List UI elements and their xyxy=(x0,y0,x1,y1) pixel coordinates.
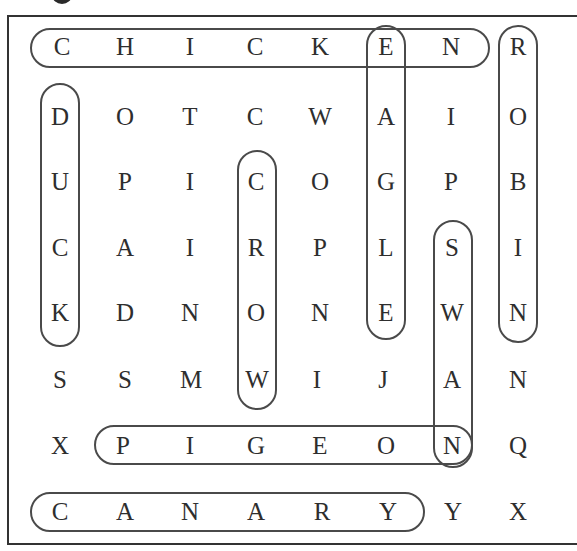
letter-cell[interactable]: B xyxy=(498,162,538,202)
letter-cell[interactable]: A xyxy=(105,228,145,268)
letter-cell[interactable]: I xyxy=(498,228,538,268)
letter-cell[interactable]: T xyxy=(170,97,210,137)
letter-cell[interactable]: G xyxy=(366,162,406,202)
letter-cell[interactable]: W xyxy=(432,293,472,333)
letter-cell[interactable]: O xyxy=(300,162,340,202)
letter-cell[interactable]: M xyxy=(171,360,211,400)
letter-cell[interactable]: K xyxy=(300,27,340,67)
letter-cell[interactable]: N xyxy=(170,492,210,532)
letter-cell[interactable]: N xyxy=(170,293,210,333)
letter-cell[interactable]: O xyxy=(498,97,538,137)
letter-cell[interactable]: C xyxy=(42,27,82,67)
letter-cell[interactable]: O xyxy=(366,426,406,466)
letter-cell[interactable]: A xyxy=(366,97,406,137)
letter-cell[interactable]: D xyxy=(40,97,80,137)
letter-cell[interactable]: E xyxy=(366,27,406,67)
letter-cell[interactable]: K xyxy=(40,293,80,333)
letter-cell[interactable]: W xyxy=(237,360,277,400)
letter-cell[interactable]: P xyxy=(431,162,471,202)
letter-cell[interactable]: S xyxy=(40,360,80,400)
letter-cell[interactable]: N xyxy=(432,426,472,466)
letter-cell[interactable]: X xyxy=(498,492,538,532)
letter-cell[interactable]: A xyxy=(236,492,276,532)
letter-cell[interactable]: Y xyxy=(433,492,473,532)
letter-cell[interactable]: D xyxy=(105,293,145,333)
letter-cell[interactable]: W xyxy=(300,97,340,137)
letter-cell[interactable]: C xyxy=(235,27,275,67)
letter-cell[interactable]: O xyxy=(105,97,145,137)
letter-cell[interactable]: C xyxy=(236,162,276,202)
letter-cell[interactable]: S xyxy=(432,228,472,268)
letter-cell[interactable]: H xyxy=(105,27,145,67)
letter-cell[interactable]: I xyxy=(170,162,210,202)
letter-cell[interactable]: N xyxy=(498,293,538,333)
letter-cell[interactable]: R xyxy=(302,492,342,532)
letter-cell[interactable]: Y xyxy=(368,492,408,532)
letter-cell[interactable]: N xyxy=(431,27,471,67)
letter-cell[interactable]: S xyxy=(105,360,145,400)
letter-cell[interactable]: C xyxy=(40,492,80,532)
letter-cell[interactable]: U xyxy=(40,162,80,202)
letter-cell[interactable]: I xyxy=(170,426,210,466)
letter-cell[interactable]: I xyxy=(297,360,337,400)
letter-cell[interactable]: I xyxy=(431,97,471,137)
letter-cell[interactable]: J xyxy=(363,360,403,400)
letter-cell[interactable]: R xyxy=(498,27,538,67)
letter-cell[interactable]: C xyxy=(40,228,80,268)
letter-cell[interactable]: R xyxy=(236,228,276,268)
heading-glyph-fragment xyxy=(52,0,72,4)
letter-cell[interactable]: L xyxy=(366,228,406,268)
letter-cell[interactable]: P xyxy=(105,162,145,202)
letter-cell[interactable]: I xyxy=(170,27,210,67)
letter-cell[interactable]: P xyxy=(300,228,340,268)
letter-cell[interactable]: X xyxy=(40,426,80,466)
letter-cell[interactable]: A xyxy=(105,492,145,532)
letter-cell[interactable]: O xyxy=(236,293,276,333)
letter-cell[interactable]: G xyxy=(236,426,276,466)
letter-cell[interactable]: Q xyxy=(498,426,538,466)
letter-cell[interactable]: N xyxy=(498,360,538,400)
letter-cell[interactable]: P xyxy=(103,426,143,466)
letter-cell[interactable]: E xyxy=(300,426,340,466)
letter-cell[interactable]: A xyxy=(432,360,472,400)
letter-cell[interactable]: N xyxy=(300,293,340,333)
letter-cell[interactable]: C xyxy=(235,97,275,137)
letter-cell[interactable]: I xyxy=(170,228,210,268)
word-search-board xyxy=(7,15,577,545)
letter-cell[interactable]: E xyxy=(366,293,406,333)
